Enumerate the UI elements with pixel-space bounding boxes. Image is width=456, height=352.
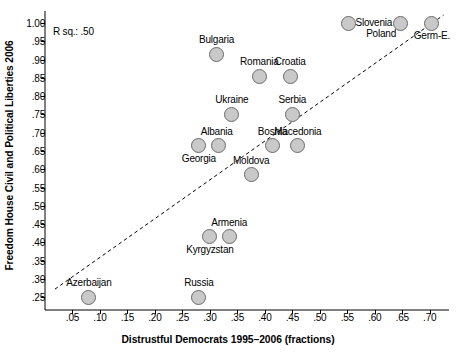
data-point-label: Georgia [182,153,216,164]
x-axis-title: Distrustful Democrats 1995–2006 (fractio… [0,334,456,345]
data-point-label: Serbia [278,94,306,105]
data-point-label: Slovenia [355,17,392,28]
scatter-plot-figure: Freedom House Civil and Political Libert… [0,0,456,352]
x-tick-label: .70 [410,312,450,323]
plot-area [0,0,456,352]
data-point-label: Germ-E. [414,30,450,41]
data-point-marker [222,229,237,244]
data-point-label: Ukraine [215,94,248,105]
data-point-label: Moldova [233,155,269,166]
data-point-marker [341,16,356,31]
data-point-label: Macedonia [274,126,321,137]
data-point-label: Romania [240,56,279,67]
data-point-marker [265,138,280,153]
data-point-marker [209,47,224,62]
data-point-label: Azerbaijan [66,277,111,288]
data-point-label: Kyrgyzstan [186,244,233,255]
data-point-label: Poland [366,28,396,39]
data-point-label: Croatia [275,56,306,67]
data-point-label: Armenia [211,217,247,228]
data-point-marker [244,167,259,182]
r-squared-annotation: R sq.: .50 [53,26,94,37]
x-axis-tick-labels: .05.10.15.20.25.30.35.40.45.50.55.60.65.… [0,312,456,328]
data-point-marker [283,69,298,84]
data-point-label: Bulgaria [199,34,234,45]
data-point-label: Albania [201,126,233,137]
data-point-marker [252,69,267,84]
data-point-label: Russia [184,277,213,288]
data-point-marker [285,107,300,122]
axis-tickmarks [41,24,431,315]
